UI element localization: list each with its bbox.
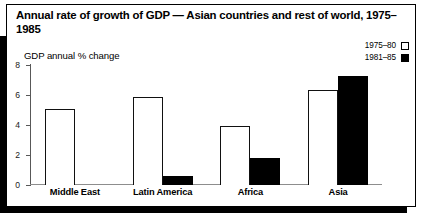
- y-tick-label-6: 6: [15, 90, 20, 100]
- bars: [294, 64, 382, 185]
- y-tick-label-2: 2: [15, 150, 20, 160]
- bar-group-asia: [294, 64, 382, 185]
- legend-item-1981-85: 1981–85: [365, 53, 409, 62]
- chart-title: Annual rate of growth of GDP — Asian cou…: [16, 8, 408, 36]
- chart-legend: 1975–80 1981–85: [365, 41, 409, 62]
- legend-swatch-filled-icon: [401, 54, 409, 62]
- bar-latin-america-1981-85: [163, 176, 193, 185]
- bar-asia-1981-85: [338, 76, 368, 185]
- frame-shadow-bottom: [5, 206, 407, 213]
- category-label-latin-america: Latin America: [119, 187, 207, 197]
- bar-group-latin-america: [119, 64, 207, 185]
- bars: [207, 64, 295, 185]
- bar-asia-1975-80: [308, 90, 338, 185]
- legend-swatch-open-icon: [401, 42, 409, 50]
- y-tick-label-0: 0: [15, 180, 20, 190]
- category-label-asia: Asia: [294, 187, 382, 197]
- bar-latin-america-1975-80: [133, 97, 163, 185]
- bar-groups: [31, 64, 382, 185]
- bar-africa-1975-80: [220, 126, 250, 185]
- chart-figure: Annual rate of growth of GDP — Asian cou…: [0, 0, 423, 222]
- y-tick-label-8: 8: [15, 60, 20, 70]
- legend-label-1981-85: 1981–85: [365, 53, 396, 62]
- bar-group-africa: [207, 64, 295, 185]
- y-tick-label-4: 4: [15, 120, 20, 130]
- category-label-africa: Africa: [207, 187, 295, 197]
- legend-item-1975-80: 1975–80: [365, 41, 409, 50]
- category-label-middle-east: Middle East: [31, 187, 119, 197]
- y-axis-title: GDP annual % change: [24, 50, 120, 61]
- category-labels: Middle EastLatin AmericaAfricaAsia: [31, 187, 382, 197]
- legend-label-1975-80: 1975–80: [365, 41, 396, 50]
- bar-africa-1981-85: [250, 158, 280, 185]
- bars: [119, 64, 207, 185]
- bars: [31, 64, 119, 185]
- bar-group-middle-east: [31, 64, 119, 185]
- bar-middle-east-1975-80: [45, 109, 75, 185]
- plot-area: 8 6 4 2 0: [30, 64, 382, 186]
